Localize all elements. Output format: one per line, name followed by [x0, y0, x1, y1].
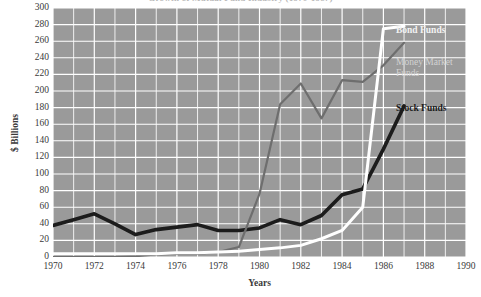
- y-tick-label: 100: [2, 169, 49, 179]
- x-axis-title: Years: [53, 278, 466, 288]
- y-tick-label: 240: [2, 53, 49, 63]
- x-tick-label: 1990: [446, 261, 481, 271]
- y-tick-label: 160: [2, 119, 49, 129]
- x-tick-label: 1984: [322, 261, 362, 271]
- y-tick-label: 300: [2, 3, 49, 13]
- y-tick-label: 80: [2, 186, 49, 196]
- chart-title: Growth of Mutual Fund Industry (1970-198…: [0, 0, 481, 3]
- plot-area: [53, 8, 466, 257]
- y-tick-label: 200: [2, 86, 49, 96]
- x-tick-label: 1974: [116, 261, 156, 271]
- series-label-bond-funds: Bond Funds: [396, 25, 445, 36]
- x-tick-label: 1970: [33, 261, 73, 271]
- x-tick-label: 1982: [281, 261, 321, 271]
- series-label-money-market-funds: Money Market Funds: [396, 57, 453, 79]
- y-tick-label: 140: [2, 136, 49, 146]
- x-tick-label: 1976: [157, 261, 197, 271]
- y-axis-tick-labels: 0204060801001201401601802002202402602803…: [0, 0, 49, 297]
- y-tick-label: 220: [2, 69, 49, 79]
- y-tick-label: 280: [2, 20, 49, 30]
- y-tick-label: 40: [2, 219, 49, 229]
- y-tick-label: 120: [2, 152, 49, 162]
- x-tick-label: 1972: [74, 261, 114, 271]
- series-label-stock-funds: Stock Funds: [396, 103, 446, 114]
- y-tick-label: 260: [2, 36, 49, 46]
- series-lines: [53, 8, 466, 257]
- y-tick-label: 20: [2, 235, 49, 245]
- y-tick-label: 180: [2, 103, 49, 113]
- x-tick-label: 1986: [363, 261, 403, 271]
- y-tick-label: 60: [2, 202, 49, 212]
- x-tick-label: 1988: [405, 261, 445, 271]
- x-tick-label: 1978: [198, 261, 238, 271]
- x-tick-label: 1980: [240, 261, 280, 271]
